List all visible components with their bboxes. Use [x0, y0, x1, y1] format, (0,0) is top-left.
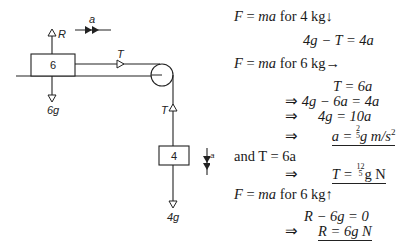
equation-heading-4kg: F = ma for 4 kg↓ — [234, 8, 333, 24]
result-acceleration: ⇒ a = 25g m/s2 — [285, 124, 395, 144]
result-tension: ⇒ T = 125g N — [285, 163, 386, 182]
result-reaction: ⇒R = 6g N — [285, 223, 372, 239]
equation-heading-6kg: F = ma for 6 kg→ — [234, 55, 340, 71]
step-simplify: ⇒4g = 10a — [285, 108, 371, 124]
equation-4kg: 4g − T = 4a — [303, 32, 374, 48]
tension-relation: and T = 6a — [234, 148, 296, 164]
equation-vertical: R − 6g = 0 — [304, 208, 369, 224]
step-substitute: ⇒ 4g − 6a = 4a — [285, 93, 379, 109]
equation-heading-vertical: F = ma for 6 kg↑ — [234, 186, 333, 202]
solution-text: F = ma for 4 kg↓ 4g − T = 4a F = ma for … — [0, 0, 416, 247]
equation-6kg: T = 6a — [333, 78, 372, 94]
